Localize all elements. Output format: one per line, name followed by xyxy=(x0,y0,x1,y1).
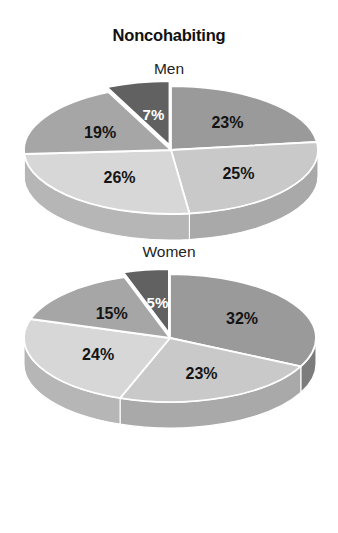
slice-label: 15% xyxy=(96,304,128,321)
pie-chart-men: 23%25%26%19%7% xyxy=(0,76,338,244)
slice-label: 32% xyxy=(226,310,258,327)
slice-label: 23% xyxy=(185,364,217,381)
pie-chart-women: 32%23%24%15%5% xyxy=(0,260,338,440)
chart-panel-men: Men 23%25%26%19%7% xyxy=(0,44,338,245)
pie-svg-women: 32%23%24%15%5% xyxy=(0,260,338,440)
pie-figure: Noncohabiting Men 23%25%26%19%7% Women 3… xyxy=(0,0,338,533)
slice-label: 7% xyxy=(143,106,165,123)
slice-label: 5% xyxy=(147,293,169,310)
chart-panel-women: Women 32%23%24%15%5% xyxy=(0,244,338,440)
slice-label: 26% xyxy=(103,169,135,186)
slice-label: 19% xyxy=(84,124,116,141)
slice-label: 25% xyxy=(222,165,254,182)
panel-label-men: Men xyxy=(0,61,338,77)
panel-label-women: Women xyxy=(0,244,338,260)
slice-label: 23% xyxy=(211,114,243,131)
slice-label: 24% xyxy=(82,345,114,362)
figure-title: Noncohabiting xyxy=(113,27,226,44)
pie-svg-men: 23%25%26%19%7% xyxy=(0,76,338,244)
